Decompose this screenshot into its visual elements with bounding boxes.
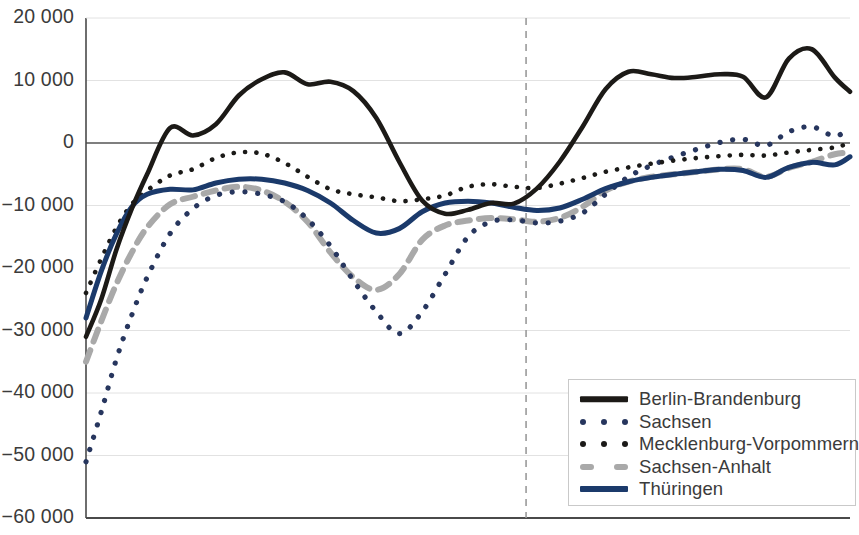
series-line-th-ringen — [86, 157, 850, 318]
dot-swatch-group — [580, 419, 628, 425]
legend-marker-dashed-line-icon — [578, 460, 630, 474]
y-tick-label: −50 000 — [2, 443, 74, 466]
dot-swatch-group — [580, 441, 628, 447]
y-tick-label: −60 000 — [2, 505, 74, 528]
y-tick-label: 10 000 — [13, 68, 74, 91]
legend-item-label: Sachsen — [639, 413, 712, 432]
legend-item-berlin-brandenburg[interactable]: Berlin-Brandenburg — [569, 388, 855, 411]
legend-item-th-ringen[interactable]: Thüringen — [569, 478, 855, 501]
dot-swatch — [622, 441, 628, 447]
dot-swatch — [601, 419, 607, 425]
legend-item-mecklenburg-vorpommern[interactable]: Mecklenburg-Vorpommern — [569, 433, 855, 456]
legend-marker-solid-line-icon — [578, 482, 630, 496]
legend-item-label: Mecklenburg-Vorpommern — [639, 435, 859, 454]
legend-item-sachsen[interactable]: Sachsen — [569, 411, 855, 434]
legend-marker-solid-line-icon — [578, 392, 630, 406]
legend-item-sachsen-anhalt[interactable]: Sachsen-Anhalt — [569, 456, 855, 479]
y-tick-label: −20 000 — [2, 255, 74, 278]
legend-item-label: Thüringen — [639, 480, 723, 499]
chart-legend: Berlin-BrandenburgSachsenMecklenburg-Vor… — [568, 379, 856, 506]
dash-swatch — [580, 464, 594, 470]
legend-item-label: Sachsen-Anhalt — [639, 458, 771, 477]
y-tick-label: 20 000 — [13, 5, 74, 28]
legend-marker-dotted-line-icon — [578, 437, 630, 451]
y-tick-label: 0 — [63, 130, 74, 153]
line-swatch — [580, 486, 628, 492]
y-tick-label: −30 000 — [2, 318, 74, 341]
line-swatch — [580, 397, 628, 403]
dot-swatch — [601, 441, 607, 447]
dot-swatch — [580, 419, 586, 425]
dash-swatch — [614, 464, 628, 470]
legend-marker-dotted-line-icon — [578, 415, 630, 429]
y-tick-label: −40 000 — [2, 380, 74, 403]
series-line-berlin-brandenburg — [86, 48, 850, 337]
y-tick-label: −10 000 — [2, 193, 74, 216]
dot-swatch — [580, 441, 586, 447]
legend-item-label: Berlin-Brandenburg — [639, 390, 801, 409]
dot-swatch — [622, 419, 628, 425]
dash-swatch-group — [580, 464, 628, 470]
